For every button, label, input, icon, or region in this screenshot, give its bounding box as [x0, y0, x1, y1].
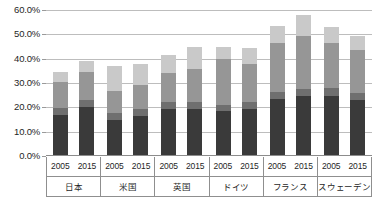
bar-group — [209, 10, 263, 156]
bar-segment-4 — [187, 47, 202, 69]
bar-segment-2 — [107, 113, 122, 120]
bar-segment-4 — [161, 55, 176, 73]
y-axis-tick-label: 30.0% — [14, 78, 40, 88]
y-axis-tick-label: 0.0% — [19, 151, 40, 161]
x-axis-year-label: 2005 — [47, 157, 74, 176]
bar-segment-1 — [53, 115, 68, 156]
bar-segment-3 — [350, 50, 365, 93]
bar-segment-1 — [270, 99, 285, 156]
bar-segment-1 — [350, 100, 365, 156]
bar-segment-2 — [350, 93, 365, 100]
bar-segment-3 — [296, 36, 311, 90]
y-axis: 0.0%10.0%20.0%30.0%40.0%50.0%60.0% — [0, 0, 46, 160]
bar-group — [46, 10, 100, 156]
x-axis-group-row: 日本米国英国ドイツフランススウェーデン — [47, 177, 371, 196]
x-axis-year-label: 2015 — [344, 157, 371, 176]
bar-segment-4 — [242, 48, 257, 64]
stacked-bar[interactable] — [350, 36, 365, 156]
bar-segment-2 — [296, 89, 311, 96]
stacked-bar[interactable] — [216, 47, 231, 157]
x-axis-year-group: 20052015 — [155, 157, 209, 176]
stacked-bar[interactable] — [242, 48, 257, 156]
bar-segment-2 — [133, 109, 148, 116]
bar-segment-3 — [270, 43, 285, 92]
bar-segment-1 — [216, 111, 231, 156]
x-axis-year-label: 2015 — [74, 157, 101, 176]
y-axis-tick-label: 60.0% — [14, 5, 40, 15]
bar-segment-4 — [53, 72, 68, 82]
x-axis-year-label: 2005 — [264, 157, 291, 176]
x-axis-year-group: 20052015 — [318, 157, 371, 176]
bar-segment-3 — [324, 43, 339, 88]
stacked-bar-chart: 0.0%10.0%20.0%30.0%40.0%50.0%60.0% 20052… — [0, 0, 372, 197]
x-axis-group-label: 英国 — [155, 177, 209, 196]
x-axis-group-label: ドイツ — [210, 177, 264, 196]
bar-segment-1 — [296, 96, 311, 156]
x-axis-year-label: 2005 — [318, 157, 345, 176]
bar-segment-1 — [324, 96, 339, 156]
bar-segment-3 — [79, 72, 94, 100]
x-axis-group-label: スウェーデン — [318, 177, 371, 196]
y-axis-tick-label: 10.0% — [14, 127, 40, 137]
bar-segment-4 — [216, 47, 231, 59]
x-axis-year-group: 20052015 — [47, 157, 101, 176]
axis-baseline — [46, 155, 372, 156]
x-axis-year-group: 20052015 — [101, 157, 155, 176]
y-axis-tick-label: 20.0% — [14, 102, 40, 112]
bar-segment-4 — [133, 64, 148, 86]
x-axis-year-label: 2005 — [155, 157, 182, 176]
bar-group — [318, 10, 372, 156]
bar-segment-4 — [107, 66, 122, 91]
bar-group — [155, 10, 209, 156]
bar-segment-1 — [79, 107, 94, 156]
bar-group — [100, 10, 154, 156]
bar-segment-2 — [53, 108, 68, 115]
bar-segment-4 — [324, 27, 339, 43]
stacked-bar[interactable] — [270, 26, 285, 156]
bar-segment-1 — [133, 116, 148, 156]
x-axis-year-row: 2005201520052015200520152005201520052015… — [47, 157, 371, 177]
bar-segment-4 — [79, 61, 94, 72]
bar-segment-1 — [107, 120, 122, 156]
stacked-bar[interactable] — [187, 47, 202, 157]
x-axis-year-label: 2015 — [182, 157, 209, 176]
bar-segment-3 — [107, 91, 122, 113]
bar-segment-4 — [296, 15, 311, 36]
y-axis-tick-label: 40.0% — [14, 54, 40, 64]
bar-segment-2 — [270, 92, 285, 99]
bar-segment-2 — [79, 100, 94, 107]
y-axis-tick-label: 50.0% — [14, 29, 40, 39]
x-axis-year-group: 20052015 — [264, 157, 318, 176]
stacked-bar[interactable] — [53, 72, 68, 156]
x-axis-year-label: 2005 — [210, 157, 237, 176]
x-axis-group-label: 日本 — [47, 177, 101, 196]
bar-segment-1 — [161, 109, 176, 156]
bar-segment-3 — [242, 64, 257, 103]
x-axis-year-label: 2015 — [290, 157, 317, 176]
bar-segment-3 — [187, 69, 202, 102]
bar-segment-4 — [270, 26, 285, 43]
stacked-bar[interactable] — [324, 27, 339, 156]
bar-segment-1 — [242, 109, 257, 156]
stacked-bar[interactable] — [107, 66, 122, 156]
bar-segment-1 — [187, 109, 202, 156]
x-axis-year-label: 2015 — [128, 157, 155, 176]
bars-layer — [46, 10, 372, 156]
x-axis-year-group: 20052015 — [210, 157, 264, 176]
bar-segment-2 — [324, 88, 339, 97]
bar-segment-3 — [161, 73, 176, 102]
bar-group — [263, 10, 317, 156]
bar-segment-2 — [187, 102, 202, 109]
bar-segment-3 — [133, 85, 148, 108]
stacked-bar[interactable] — [296, 15, 311, 156]
x-axis-group-label: 米国 — [101, 177, 155, 196]
x-axis-year-label: 2005 — [101, 157, 128, 176]
stacked-bar[interactable] — [161, 55, 176, 156]
stacked-bar[interactable] — [79, 61, 94, 156]
bar-segment-3 — [216, 59, 231, 105]
x-axis-group-label: フランス — [264, 177, 318, 196]
bar-segment-3 — [53, 82, 68, 108]
x-axis-year-label: 2015 — [236, 157, 263, 176]
bar-segment-4 — [350, 36, 365, 51]
stacked-bar[interactable] — [133, 64, 148, 156]
